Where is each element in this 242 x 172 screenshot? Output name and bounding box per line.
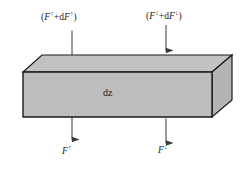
up-arrow-glyph-2: ↑	[70, 10, 74, 18]
label-downward-flux-in: (F↓+dF↓)	[146, 10, 182, 22]
slab-front-face	[23, 72, 212, 117]
up-arrow-glyph: ↑	[50, 10, 54, 18]
plus-differential: +d	[159, 11, 169, 21]
flux-slab-figure: (F↑+dF↑) (F↓+dF↓) F↑ F↓ dz	[0, 0, 242, 172]
down-arrow-glyph: ↓	[155, 9, 159, 17]
down-arrow-glyph: ↓	[164, 143, 168, 151]
plus-differential: +d	[54, 12, 64, 22]
slab-diagram-svg	[0, 0, 242, 172]
slab-top-face	[23, 55, 232, 72]
down-arrow-glyph-2: ↓	[175, 9, 179, 17]
label-upward-flux-in: F↑	[62, 145, 72, 157]
slab-thickness-label: dz	[103, 88, 113, 98]
up-arrow-glyph: ↑	[68, 144, 72, 152]
paren-close: )	[74, 12, 77, 22]
paren-close: )	[179, 11, 182, 21]
label-upward-flux-out: (F↑+dF↑)	[41, 11, 77, 23]
label-downward-flux-out: F↓	[158, 144, 168, 156]
slab-solid	[23, 55, 232, 117]
